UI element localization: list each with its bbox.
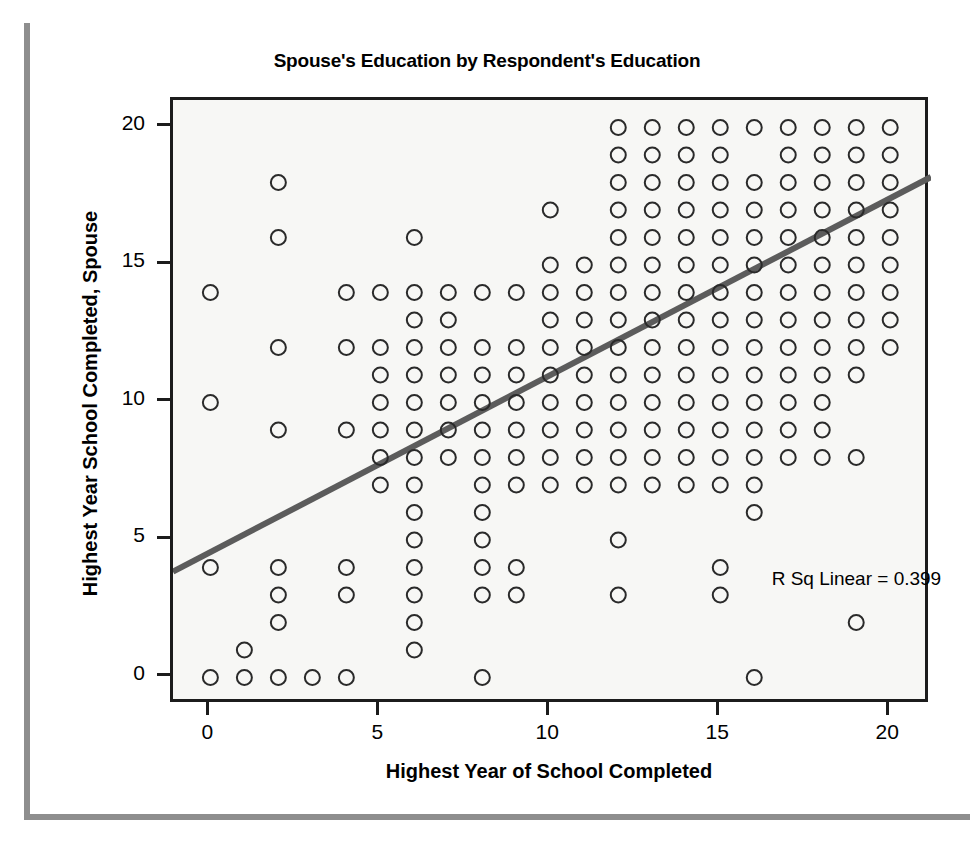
chart-title: Spouse's Education by Respondent's Educa… xyxy=(0,50,974,72)
data-point xyxy=(475,588,490,603)
x-axis-tick xyxy=(886,702,889,715)
data-point xyxy=(339,285,354,300)
data-point xyxy=(713,203,728,218)
data-point xyxy=(407,533,422,548)
data-point xyxy=(611,258,626,273)
data-point xyxy=(611,368,626,383)
data-point xyxy=(849,230,864,245)
data-point xyxy=(407,423,422,438)
data-point xyxy=(543,258,558,273)
data-point xyxy=(203,670,218,685)
data-point xyxy=(339,670,354,685)
data-point xyxy=(373,478,388,493)
data-point xyxy=(475,533,490,548)
data-point xyxy=(611,478,626,493)
data-point xyxy=(747,175,762,190)
data-point xyxy=(543,313,558,328)
data-point xyxy=(849,175,864,190)
data-point xyxy=(441,368,456,383)
data-point xyxy=(543,203,558,218)
data-point xyxy=(645,478,660,493)
data-point xyxy=(645,230,660,245)
data-point xyxy=(611,120,626,135)
data-point xyxy=(883,120,898,135)
data-point xyxy=(271,560,286,575)
x-axis-tick-label: 20 xyxy=(857,720,917,744)
data-point xyxy=(271,588,286,603)
data-point xyxy=(611,175,626,190)
data-point xyxy=(373,395,388,410)
figure-frame: Spouse's Education by Respondent's Educa… xyxy=(0,0,974,849)
data-point xyxy=(679,175,694,190)
data-point xyxy=(475,560,490,575)
data-point xyxy=(849,258,864,273)
data-point xyxy=(577,313,592,328)
data-point xyxy=(679,148,694,163)
data-point xyxy=(713,230,728,245)
data-point xyxy=(713,175,728,190)
data-point xyxy=(509,588,524,603)
data-point xyxy=(407,505,422,520)
data-point xyxy=(645,450,660,465)
data-point xyxy=(679,423,694,438)
y-axis-tick xyxy=(157,398,170,401)
data-point xyxy=(747,423,762,438)
data-point xyxy=(883,203,898,218)
data-point xyxy=(883,340,898,355)
data-point xyxy=(339,560,354,575)
data-point xyxy=(475,505,490,520)
data-point xyxy=(611,588,626,603)
data-point xyxy=(611,533,626,548)
data-point xyxy=(339,423,354,438)
data-point xyxy=(849,615,864,630)
data-point xyxy=(883,258,898,273)
data-point xyxy=(781,230,796,245)
data-point xyxy=(781,395,796,410)
data-point xyxy=(747,120,762,135)
x-axis-tick-label: 5 xyxy=(347,720,407,744)
data-point xyxy=(407,478,422,493)
y-axis-tick xyxy=(157,123,170,126)
data-point xyxy=(645,203,660,218)
data-point xyxy=(271,175,286,190)
data-point xyxy=(713,340,728,355)
data-point xyxy=(645,340,660,355)
data-point xyxy=(577,340,592,355)
data-point xyxy=(509,340,524,355)
x-axis-tick-label: 15 xyxy=(687,720,747,744)
plot-area xyxy=(170,97,928,702)
x-axis-tick-label: 10 xyxy=(517,720,577,744)
data-point xyxy=(373,340,388,355)
x-axis-title: Highest Year of School Completed xyxy=(170,760,928,783)
data-point xyxy=(883,285,898,300)
data-point xyxy=(815,285,830,300)
data-point xyxy=(203,395,218,410)
data-point xyxy=(441,313,456,328)
data-point xyxy=(781,120,796,135)
data-point xyxy=(781,175,796,190)
data-point xyxy=(475,450,490,465)
data-point xyxy=(645,395,660,410)
data-point xyxy=(203,285,218,300)
data-point xyxy=(577,285,592,300)
data-point xyxy=(373,285,388,300)
data-point xyxy=(781,203,796,218)
data-point xyxy=(747,450,762,465)
x-axis-tick xyxy=(206,702,209,715)
data-point xyxy=(713,368,728,383)
data-point xyxy=(611,423,626,438)
data-point xyxy=(713,478,728,493)
data-point xyxy=(407,368,422,383)
data-point xyxy=(747,285,762,300)
data-point xyxy=(475,285,490,300)
data-point xyxy=(883,148,898,163)
data-point xyxy=(679,368,694,383)
data-point xyxy=(271,230,286,245)
data-point xyxy=(849,120,864,135)
data-point xyxy=(713,423,728,438)
data-point xyxy=(747,670,762,685)
data-point xyxy=(815,258,830,273)
data-point xyxy=(883,175,898,190)
data-point xyxy=(237,643,252,658)
data-point xyxy=(747,313,762,328)
